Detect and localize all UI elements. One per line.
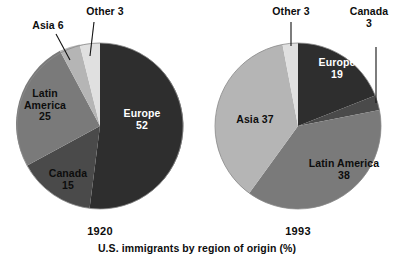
callout-label-other-1920: Other 3 [76, 6, 134, 18]
pie-charts-canvas [0, 0, 394, 258]
callout-label-other-1993: Other 3 [262, 6, 320, 18]
figure-caption: U.S. immigrants by region of origin (%) [0, 242, 394, 254]
immigrant-origin-pie-figure: Europe 52 Canada 15 Latin America 25 Asi… [0, 0, 394, 258]
slice-label-asia-1993: Asia 37 [224, 114, 286, 126]
slice-label-latin-america-1920: Latin America 25 [14, 88, 76, 123]
pie-year-1920: 1920 [70, 226, 130, 238]
callout-label-asia-1920: Asia 6 [20, 20, 76, 32]
slice-label-canada-1920: Canada 15 [34, 168, 102, 191]
callout-label-canada-1993: Canada 3 [344, 6, 394, 29]
slice-label-latin-america-1993: Latin America 38 [300, 158, 388, 181]
slice-label-europe-1993: Europe 19 [306, 57, 368, 80]
pie-year-1993: 1993 [268, 226, 328, 238]
slice-label-europe-1920: Europe 52 [108, 108, 176, 131]
